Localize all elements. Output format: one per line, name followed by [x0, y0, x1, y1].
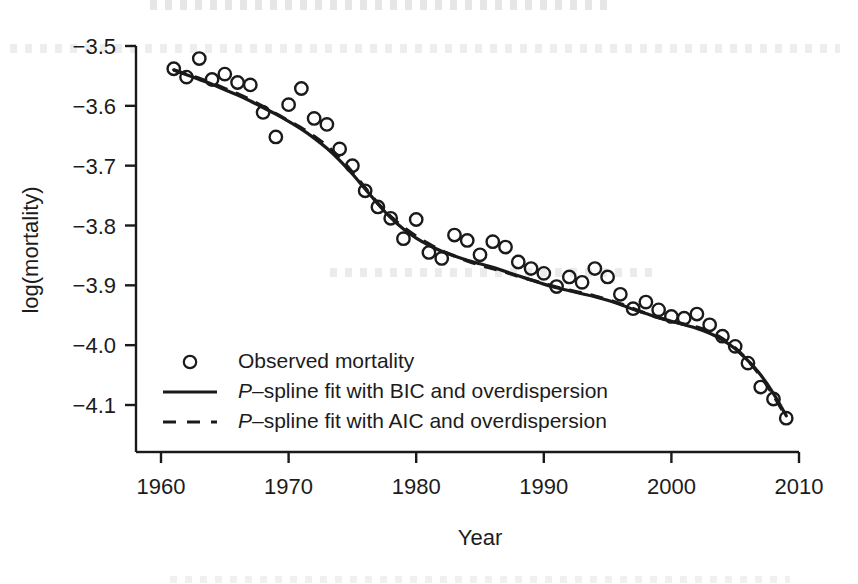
y-tick-labels: −3.5−3.6−3.7−3.8−3.9−4.0−4.1 — [73, 34, 116, 418]
data-point-observed — [563, 271, 575, 283]
data-point-observed — [652, 304, 664, 316]
legend-item-bic-fit: P–spline fit with BIC and overdispersion — [163, 379, 608, 402]
data-point-observed — [525, 262, 537, 274]
data-point-observed — [436, 252, 448, 264]
legend-item-observed-mortality: Observed mortality — [184, 349, 415, 372]
data-point-observed — [244, 79, 256, 91]
data-point-observed — [576, 276, 588, 288]
data-point-observed — [703, 319, 715, 331]
y-tick-label: −3.7 — [73, 154, 116, 179]
legend-label: P–spline fit with AIC and overdispersion — [238, 409, 607, 432]
x-tick-label: 2000 — [647, 474, 696, 499]
data-point-observed — [755, 381, 767, 393]
x-tick-label: 1990 — [519, 474, 568, 499]
data-point-observed — [640, 296, 652, 308]
data-point-observed — [193, 52, 205, 64]
mortality-scatter-plot: −3.5−3.6−3.7−3.8−3.9−4.0−4.1 19601970198… — [0, 0, 858, 584]
data-point-observed — [397, 232, 409, 244]
y-tick-label: −3.6 — [73, 94, 116, 119]
data-point-observed — [219, 68, 231, 80]
legend-open-circle-icon — [184, 356, 196, 368]
data-point-observed — [270, 131, 282, 143]
data-point-observed — [474, 249, 486, 261]
data-point-observed — [448, 229, 460, 241]
legend-label: P–spline fit with BIC and overdispersion — [238, 379, 608, 402]
x-tick-label: 1970 — [264, 474, 313, 499]
data-point-observed — [589, 262, 601, 274]
data-point-observed — [321, 118, 333, 130]
chart-figure: −3.5−3.6−3.7−3.8−3.9−4.0−4.1 19601970198… — [0, 0, 858, 584]
data-point-observed — [512, 256, 524, 268]
x-tick-label: 1980 — [392, 474, 441, 499]
legend-label: Observed mortality — [238, 349, 415, 372]
y-tick-label: −3.8 — [73, 214, 116, 239]
data-point-observed — [614, 288, 626, 300]
x-tick-label: 1960 — [137, 474, 186, 499]
data-point-observed — [423, 246, 435, 258]
x-axis-title: Year — [458, 525, 502, 550]
y-tick-label: −4.1 — [73, 393, 116, 418]
data-point-observed — [410, 213, 422, 225]
y-tick-label: −3.5 — [73, 34, 116, 59]
data-point-observed — [308, 112, 320, 124]
data-point-observed — [538, 267, 550, 279]
y-axis-title: log(mortality) — [18, 186, 43, 313]
data-point-observed — [231, 76, 243, 88]
y-tick-label: −3.9 — [73, 273, 116, 298]
data-point-observed — [499, 241, 511, 253]
data-point-observed — [282, 98, 294, 110]
y-tick-label: −4.0 — [73, 333, 116, 358]
data-point-observed — [487, 235, 499, 247]
x-tick-label: 2010 — [775, 474, 824, 499]
x-tick-labels: 196019701980199020002010 — [137, 474, 824, 499]
legend-item-aic-fit: P–spline fit with AIC and overdispersion — [163, 409, 607, 432]
data-point-observed — [333, 143, 345, 155]
y-axis — [125, 46, 136, 405]
data-point-observed — [601, 271, 613, 283]
data-point-observed — [691, 308, 703, 320]
chart-legend: Observed mortalityP–spline fit with BIC … — [163, 349, 608, 432]
data-point-observed — [461, 234, 473, 246]
data-point-observed — [295, 82, 307, 94]
